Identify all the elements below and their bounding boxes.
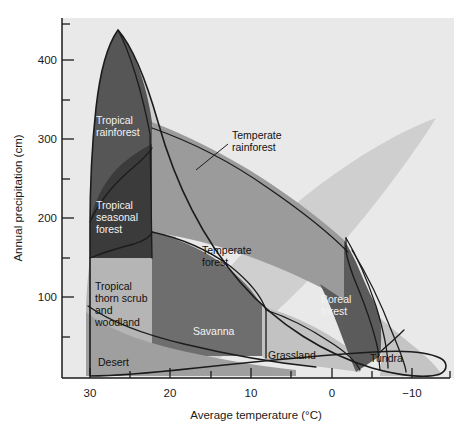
label-boreal-line1: Boreal	[321, 293, 351, 305]
y-tick-label-100: 100	[38, 291, 57, 303]
label-tropical-thorn-line2: thorn scrub	[95, 292, 148, 304]
label-desert: Desert	[98, 356, 129, 368]
label-tropical-thorn-line4: woodland	[94, 316, 140, 328]
label-temperate-rainforest-line1: Temperate	[232, 129, 282, 141]
y-tick-label-300: 300	[38, 133, 57, 145]
x-tick-label-10: 10	[245, 387, 258, 399]
x-tick-label-0: 0	[329, 387, 335, 399]
label-temperate-forest-line2: forest	[202, 256, 228, 268]
y-tick-label-400: 400	[38, 54, 57, 66]
label-tropical-seasonal-line3: forest	[96, 223, 122, 235]
y-tick-label-200: 200	[38, 212, 57, 224]
label-temperate-forest-line1: Temperate	[202, 244, 252, 256]
label-tropical-seasonal-line2: seasonal	[96, 211, 138, 223]
label-tropical-seasonal-line1: Tropical	[96, 199, 133, 211]
label-savanna: Savanna	[193, 325, 235, 337]
y-axis-title: Annual precipitation (cm)	[12, 134, 24, 261]
label-grassland: Grassland	[268, 349, 316, 361]
x-tick-label-20: 20	[164, 387, 177, 399]
label-tropical-thorn-line3: and	[95, 304, 113, 316]
label-boreal-line2: forest	[321, 305, 347, 317]
chart-svg: 100 200 300 400 30 20 10 0 −10 Average t…	[0, 0, 454, 428]
x-tick-label-30: 30	[84, 387, 97, 399]
x-axis-title: Average temperature (°C)	[190, 409, 322, 421]
label-tropical-thorn-line1: Tropical	[95, 280, 132, 292]
label-temperate-rainforest-line2: rainforest	[232, 141, 276, 153]
x-tick-label-minus10: −10	[402, 387, 422, 399]
whittaker-biome-chart: 100 200 300 400 30 20 10 0 −10 Average t…	[0, 0, 454, 428]
label-tropical-rainforest-line1: Tropical	[96, 114, 133, 126]
label-tropical-rainforest-line2: rainforest	[96, 126, 140, 138]
label-tundra: Tundra	[370, 352, 403, 364]
